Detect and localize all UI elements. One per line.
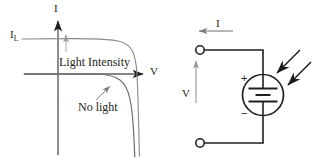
cell-minus-sign: −: [241, 108, 247, 119]
annotation-light-intensity: Light Intensity: [59, 56, 130, 68]
y-intercept-subscript: L: [14, 34, 19, 43]
cell-plus-sign: +: [241, 73, 247, 84]
curve-no-light: [24, 74, 135, 157]
incident-light-arrows: [277, 50, 311, 85]
circuit-diagram: [196, 31, 311, 147]
circuit-voltage-label: V: [182, 88, 190, 99]
no-light-leader-arrow: [96, 86, 110, 100]
iv-chart-axes: [24, 21, 143, 155]
y-intercept-label: IL: [10, 29, 19, 43]
wire-bottom: [204, 121, 263, 143]
top-terminal-icon: [196, 46, 204, 54]
bottom-terminal-icon: [196, 139, 204, 147]
annotation-no-light: No light: [78, 101, 118, 113]
photodiode-figure: I IL V Light Intensity No light I V + −: [0, 0, 315, 163]
figure-canvas: [0, 0, 315, 163]
x-axis-label: V: [150, 66, 158, 77]
circuit-current-label: I: [216, 18, 220, 29]
y-axis-label: I: [54, 3, 58, 14]
wire-top: [204, 50, 263, 69]
